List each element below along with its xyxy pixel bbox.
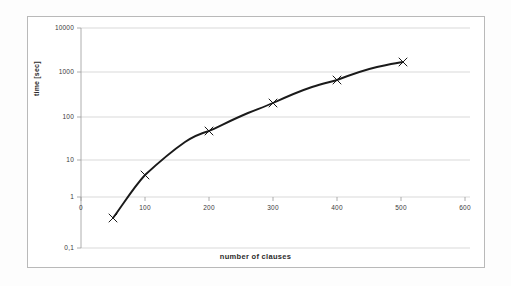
x-tick-label-600: 600 (455, 204, 475, 211)
data-marker-2 (141, 171, 149, 179)
x-tick-label-300: 300 (263, 204, 283, 211)
y-axis-title: time [sec] (33, 26, 40, 96)
data-marker-4 (269, 99, 277, 107)
chart-plot-area (0, 0, 511, 286)
x-tick-marks (81, 197, 465, 201)
chart-figure: 10000 1000 100 10 1 0,1 0 100 200 300 40… (0, 0, 511, 286)
y-tick-label-1000: 1000 (46, 68, 74, 75)
y-tick-label-10000: 10000 (46, 24, 74, 31)
x-axis-title: number of clauses (0, 252, 511, 261)
x-tick-label-0: 0 (71, 204, 91, 211)
y-tick-label-10: 10 (46, 156, 74, 163)
data-markers (109, 58, 407, 222)
y-tick-label-100: 100 (46, 113, 74, 120)
x-tick-label-400: 400 (327, 204, 347, 211)
x-tick-label-100: 100 (135, 204, 155, 211)
y-tick-label-0-1: 0,1 (46, 244, 74, 251)
x-tick-label-500: 500 (391, 204, 411, 211)
y-tick-label-1: 1 (46, 193, 74, 200)
data-line-runtime (113, 62, 403, 218)
x-tick-label-200: 200 (199, 204, 219, 211)
data-marker-1 (109, 214, 117, 222)
y-tick-marks (77, 28, 81, 248)
gridlines (81, 28, 470, 248)
